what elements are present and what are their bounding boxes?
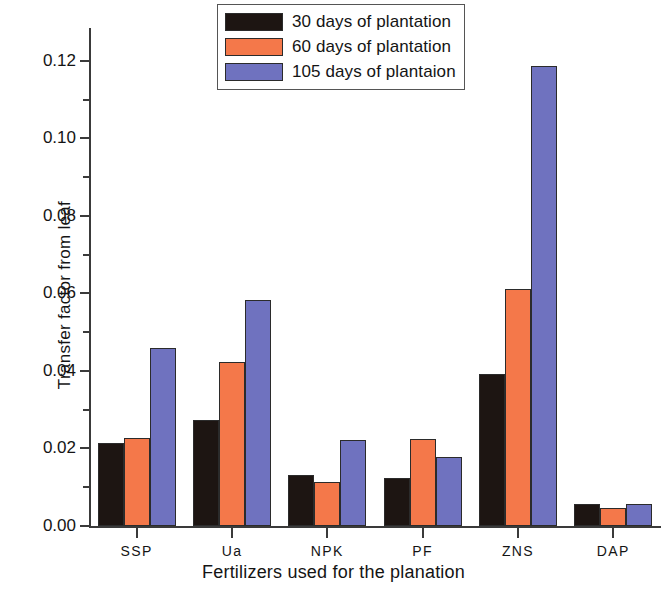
y-axis-tick-major: [80, 292, 89, 294]
x-axis-tick-label: Ua: [222, 543, 243, 559]
legend-swatch: [225, 63, 283, 81]
y-axis-tick-major: [80, 215, 89, 217]
y-axis-tick-major: [80, 370, 89, 372]
y-axis-tick-label: 0.12: [43, 51, 76, 71]
y-axis-tick-minor: [83, 331, 89, 333]
bar: [384, 478, 410, 526]
bar: [288, 475, 314, 526]
x-axis-tick-label: SSP: [121, 543, 153, 559]
bar-chart-figure: Transfer factor from leaf Fertilizers us…: [0, 0, 667, 595]
x-axis-tick-label: NPK: [311, 543, 344, 559]
bar: [479, 374, 505, 526]
y-axis-tick-label: 0.10: [43, 128, 76, 148]
legend-item: 105 days of plantaion: [225, 59, 456, 84]
legend-label: 60 days of plantation: [292, 37, 451, 57]
y-axis-tick-label: 0.06: [43, 283, 76, 303]
legend-item: 60 days of plantation: [225, 34, 456, 59]
bar: [600, 508, 626, 526]
legend-swatch: [225, 38, 283, 56]
x-axis-tick: [612, 528, 614, 538]
bar: [124, 438, 150, 526]
x-axis-tick: [326, 528, 328, 538]
x-axis-tick-label: DAP: [597, 543, 630, 559]
y-axis-tick-label: 0.02: [43, 438, 76, 458]
x-axis-tick-label: PF: [412, 543, 433, 559]
x-axis-title: Fertilizers used for the planation: [0, 562, 667, 583]
bar: [150, 348, 176, 526]
x-axis-tick-label: ZNS: [502, 543, 534, 559]
bar: [505, 289, 531, 526]
bar: [98, 443, 124, 526]
y-axis-tick-label: 0.00: [43, 516, 76, 536]
chart-legend: 30 days of plantation60 days of plantati…: [217, 4, 465, 90]
legend-item: 30 days of plantation: [225, 9, 456, 34]
y-axis-tick-label: 0.04: [43, 361, 76, 381]
bar: [436, 457, 462, 526]
bar: [193, 420, 219, 526]
bar: [340, 440, 366, 526]
x-axis-tick: [136, 528, 138, 538]
y-axis-tick-major: [80, 525, 89, 527]
y-axis-tick-minor: [83, 176, 89, 178]
x-axis-tick: [231, 528, 233, 538]
plot-area: 0.000.020.040.060.080.100.12 SSPUaNPKPFZ…: [89, 28, 661, 526]
bar: [531, 66, 557, 526]
y-axis-tick-minor: [83, 99, 89, 101]
legend-swatch: [225, 13, 283, 31]
x-axis-tick: [517, 528, 519, 538]
y-axis-tick-major: [80, 60, 89, 62]
legend-label: 105 days of plantaion: [292, 62, 456, 82]
bar: [314, 482, 340, 526]
bar: [410, 439, 436, 526]
bar: [219, 362, 245, 526]
x-axis-line: [89, 526, 661, 528]
y-axis-tick-label: 0.08: [43, 206, 76, 226]
y-axis-tick-major: [80, 447, 89, 449]
y-axis-tick-minor: [83, 254, 89, 256]
legend-label: 30 days of plantation: [292, 12, 451, 32]
y-axis-tick-minor: [83, 486, 89, 488]
y-axis-line: [89, 28, 91, 526]
y-axis-tick-minor: [83, 409, 89, 411]
x-axis-tick: [422, 528, 424, 538]
bar: [626, 504, 652, 526]
bar: [245, 300, 271, 526]
y-axis-tick-major: [80, 137, 89, 139]
bar: [574, 504, 600, 526]
